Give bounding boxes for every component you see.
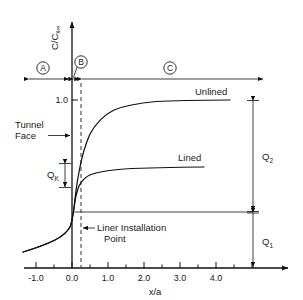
x-axis-title: x/a [149, 286, 162, 297]
q2-annotation: Q2 [247, 101, 273, 212]
y-axis-title-group: C/Cx∞ [49, 25, 61, 50]
zone-b-leader [74, 67, 78, 78]
x-tick-label-1: 0.0 [66, 273, 79, 283]
tunnel-face-annotation: Tunnel Face [15, 119, 70, 141]
zone-label-c-text: C [167, 63, 173, 73]
curve-label-lined: Lined [178, 152, 201, 163]
y-tick-label-0: 1.0 [55, 95, 68, 105]
chart-svg: -1.0 0.0 1.0 2.0 3.0 4.0 x/a 1.0 C/Cx∞ A… [0, 0, 303, 300]
qk-annotation: QK [47, 164, 71, 188]
y-axis-title: C/Cx∞ [49, 25, 61, 50]
q2-label-sub: 2 [269, 157, 273, 164]
x-tick-label-2: 1.0 [102, 273, 115, 283]
chart-figure: -1.0 0.0 1.0 2.0 3.0 4.0 x/a 1.0 C/Cx∞ A… [0, 0, 303, 300]
liner-installation-label-line2: Point [104, 233, 126, 244]
q1-label-main: Q [262, 236, 269, 247]
zone-indicator-bar: A B C [29, 56, 263, 79]
tunnel-face-label-line1: Tunnel [15, 119, 44, 130]
y-axis-title-main: C/C [49, 34, 60, 51]
q2-label: Q2 [262, 151, 273, 164]
q1-label-sub: 1 [269, 242, 273, 249]
q2-label-main: Q [262, 151, 269, 162]
x-tick-label-4: 3.0 [174, 273, 187, 283]
x-tick-label-5: 4.0 [210, 273, 223, 283]
qk-label: QK [47, 169, 59, 182]
qk-label-sub: K [54, 175, 59, 182]
zone-label-a: A [37, 62, 49, 74]
x-tick-label-3: 2.0 [138, 273, 151, 283]
liner-installation-annotation: Liner Installation Point [83, 222, 166, 244]
curve-label-unlined: Unlined [195, 86, 227, 97]
liner-installation-label-line1: Liner Installation [97, 222, 166, 233]
tunnel-face-label-line2: Face [15, 130, 36, 141]
q1-annotation: Q1 [247, 213, 273, 267]
q1-label: Q1 [262, 236, 273, 249]
x-tick-label-0: -1.0 [28, 273, 44, 283]
zone-label-b-text: B [78, 57, 84, 67]
zone-label-a-text: A [40, 63, 46, 73]
zone-label-b: B [74, 56, 88, 78]
x-tick-marks [36, 262, 252, 268]
qk-label-main: Q [47, 169, 54, 180]
zone-label-c: C [164, 62, 176, 74]
x-tick-labels: -1.0 0.0 1.0 2.0 3.0 4.0 [28, 273, 222, 283]
y-axis-title-sub: x∞ [54, 25, 61, 33]
